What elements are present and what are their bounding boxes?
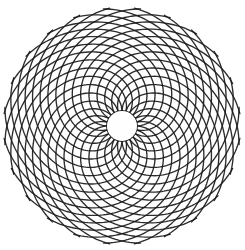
center-void-circle [107,111,137,141]
spirograph-figure: Spirograph Rosette Black and white spiro… [0,0,245,250]
